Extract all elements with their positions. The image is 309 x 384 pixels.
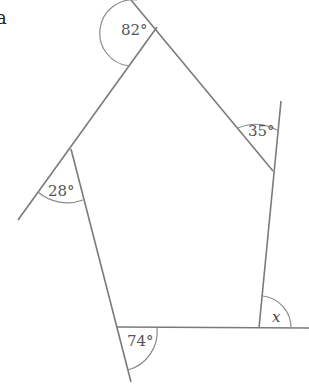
edge-lower-left — [71, 149, 131, 382]
angle-label-74: 74° — [127, 332, 154, 350]
angle-label-28: 28° — [48, 182, 75, 200]
angle-label-x: x — [272, 308, 281, 326]
angle-label-35: 35° — [248, 122, 275, 140]
angle-label-82: 82° — [121, 21, 148, 39]
pentagon-diagram: a 82° 35° 28° 74° x — [0, 0, 309, 384]
edge-bottom — [117, 327, 309, 328]
edge-top-left — [18, 27, 157, 220]
edge-top-right — [131, 0, 273, 171]
corner-letter: a — [0, 7, 7, 28]
